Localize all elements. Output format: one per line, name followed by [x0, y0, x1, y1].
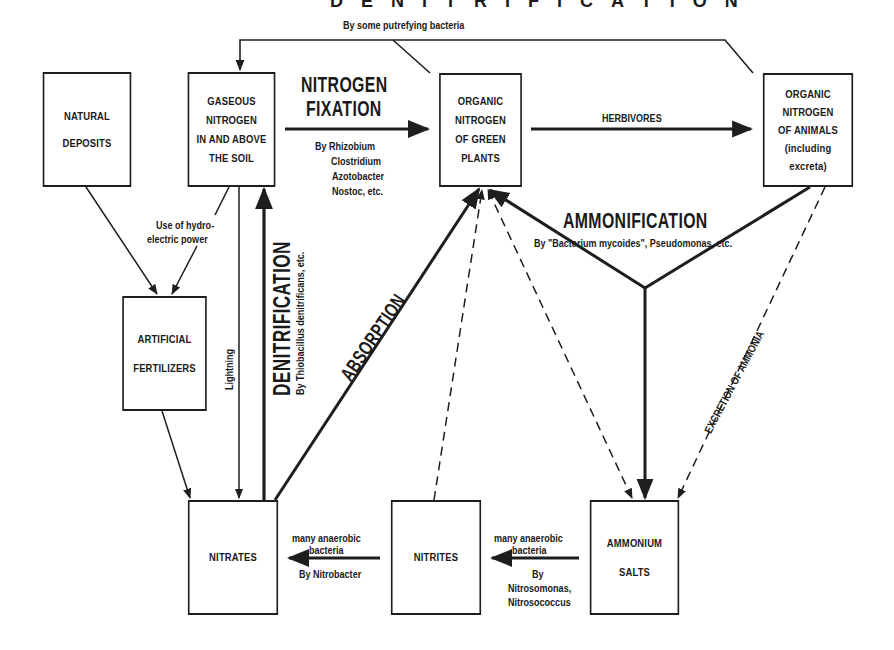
nitrobacter-label-2: bacteria — [309, 543, 344, 557]
node-natural-deposits: NATURAL DEPOSITS — [43, 72, 132, 187]
nitrosomonas-label-3: By — [532, 567, 544, 581]
hydroelectric-arrow — [215, 187, 229, 215]
putrefying-label: By some putrefying bacteria — [343, 18, 464, 32]
fixation-organism-3: Azotobacter — [332, 169, 384, 183]
nitrosomonas-label-4: Nitrosomonas, — [508, 581, 571, 595]
ammonification-label: AMMONIFICATION — [563, 209, 708, 233]
node-label: NATURAL — [64, 107, 110, 126]
node-label: AMMONIUM — [607, 534, 662, 553]
node-label: DEPOSITS — [62, 134, 111, 153]
nitrites-to-plants-dashed-arrow — [434, 190, 482, 500]
node-label: SALTS — [619, 563, 650, 582]
nitrosomonas-label-5: Nitrosococcus — [508, 595, 571, 609]
denitrification-organism-label: By Thiobacillus denitrificans, etc. — [293, 252, 307, 395]
node-green-plants: ORGANIC NITROGEN OF GREEN PLANTS — [439, 73, 522, 187]
node-ammonium-salts: AMMONIUM SALTS — [590, 500, 679, 615]
node-label: (including — [785, 139, 832, 157]
node-gaseous-nitrogen: GASEOUS NITROGEN IN AND ABOVE THE SOIL — [188, 72, 276, 187]
node-label: NITROGEN — [455, 111, 506, 130]
node-animals: ORGANIC NITROGEN OF ANIMALS (including e… — [763, 73, 853, 187]
ammonification-organism-label: By "Bacterium mycoides", Pseudomonas, et… — [534, 236, 732, 250]
node-nitrates: NITRATES — [188, 500, 278, 615]
denitrification-label: DENITRIFICATION — [270, 241, 294, 396]
node-label: NITROGEN — [206, 111, 257, 130]
node-label: OF GREEN — [455, 130, 506, 149]
nitrogen-fixation-title-2: FIXATION — [306, 97, 382, 121]
node-label: NITROGEN — [782, 103, 833, 121]
nitrosomonas-label-2: bacteria — [512, 543, 547, 557]
node-label: GASEOUS — [207, 92, 255, 111]
node-label: excreta) — [789, 157, 826, 175]
node-label: IN AND ABOVE — [197, 130, 267, 149]
node-nitrites: NITRITES — [391, 500, 481, 615]
fixation-organism-4: Nostoc, etc. — [332, 184, 383, 198]
fixation-organism-1: By Rhizobium — [315, 139, 375, 153]
fixation-organism-2: Clostridium — [331, 154, 381, 168]
fertilizers-to-nitrates-arrow — [162, 411, 190, 498]
node-label: PLANTS — [461, 149, 500, 168]
node-label: THE SOIL — [209, 149, 254, 168]
node-label: ORGANIC — [785, 85, 831, 103]
lightning-label: Lightning — [222, 349, 236, 390]
node-label: FERTILIZERS — [133, 359, 196, 378]
nitrobacter-label-3: By Nitrobacter — [299, 567, 361, 581]
hydroelectric-label-2: electric power — [147, 232, 208, 246]
node-artificial-fertilizers: ARTIFICIAL FERTILIZERS — [122, 296, 206, 411]
node-label: OF ANIMALS — [778, 121, 838, 139]
node-label: ORGANIC — [458, 92, 504, 111]
putrefying-loop-arrow — [240, 40, 753, 73]
hydroelectric-label-1: Use of hydro- — [156, 218, 214, 232]
herbivores-label: HERBIVORES — [602, 111, 662, 125]
nitrogen-fixation-title-1: NITROGEN — [301, 73, 387, 97]
node-label: NITRITES — [414, 548, 458, 567]
node-label: NITRATES — [209, 548, 257, 567]
node-label: ARTIFICIAL — [137, 330, 191, 349]
